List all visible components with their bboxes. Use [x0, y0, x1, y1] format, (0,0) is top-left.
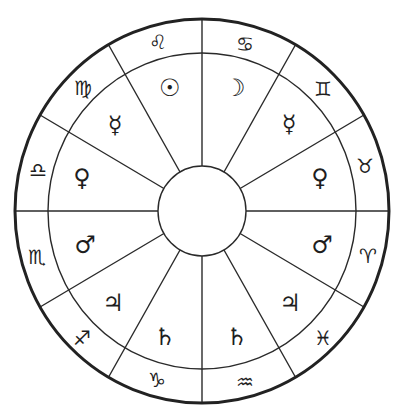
mercury-planet-icon: ☿︎: [108, 111, 123, 139]
aries-sign-icon: ♈︎: [359, 244, 377, 268]
saturn-planet-icon: ♄︎: [154, 323, 176, 351]
sun-planet-icon: ☉︎: [159, 74, 181, 102]
jupiter-planet-icon: ♃︎: [102, 289, 124, 317]
venus-planet-icon: ♀︎: [73, 164, 91, 192]
center-hub: [158, 166, 246, 256]
virgo-sign-icon: ♍︎: [74, 76, 92, 100]
leo-sign-icon: ♌︎: [149, 30, 167, 54]
scorpio-sign-icon: ♏︎: [28, 245, 46, 269]
cancer-sign-icon: ♋︎: [236, 32, 254, 56]
aquarius-sign-icon: ♒︎: [236, 370, 254, 394]
moon-planet-icon: ☽︎: [224, 74, 246, 102]
pisces-sign-icon: ♓︎: [314, 326, 332, 350]
taurus-sign-icon: ♉︎: [356, 154, 374, 178]
zodiac-rulership-wheel: ♌︎♋︎♍︎♊︎♎︎♉︎♏︎♈︎♐︎♓︎♑︎♒︎ ☉︎☽︎☿︎☿︎♀︎♀︎♂︎♂…: [0, 0, 403, 420]
saturn-planet-icon: ♄︎: [226, 323, 248, 351]
mars-planet-icon: ♂︎: [311, 231, 333, 259]
mars-planet-icon: ♂︎: [74, 231, 96, 259]
sagittarius-sign-icon: ♐︎: [73, 326, 91, 350]
gemini-sign-icon: ♊︎: [314, 77, 332, 101]
mercury-planet-icon: ☿︎: [282, 110, 297, 138]
jupiter-planet-icon: ♃︎: [279, 289, 301, 317]
libra-sign-icon: ♎︎: [29, 158, 47, 182]
capricorn-sign-icon: ♑︎: [148, 368, 166, 392]
venus-planet-icon: ♀︎: [311, 164, 329, 192]
